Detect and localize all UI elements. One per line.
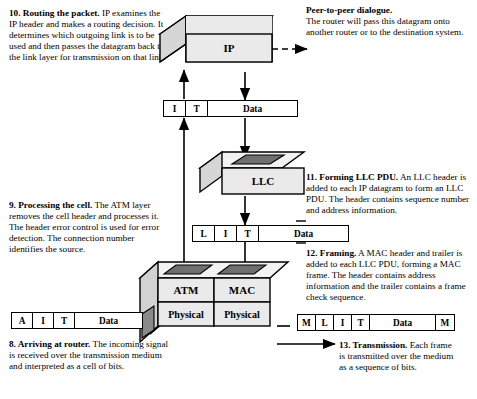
pdu-llc: L I T Data: [192, 225, 349, 242]
pdu-field: Data: [208, 101, 297, 116]
pdu-field: Data: [370, 315, 436, 330]
box-llc: LLC: [200, 152, 310, 204]
pdu-field: M: [298, 315, 316, 330]
pdu-field: T: [352, 315, 370, 330]
box-physical-left-front: [158, 302, 214, 326]
box-stack-top-face: [140, 262, 288, 278]
box-ip: IP: [160, 16, 278, 76]
pdu-field-label: T: [244, 229, 250, 239]
pdu-field: A: [12, 313, 33, 328]
box-llc-side-face: [200, 152, 222, 192]
pdu-field-label: Data: [243, 104, 262, 114]
box-llc-front-panel: [222, 168, 304, 194]
box-ip-side-face: [160, 16, 186, 62]
pdu-field: T: [54, 313, 75, 328]
pdu-field-label: L: [321, 318, 327, 328]
pdu-field: L: [316, 315, 334, 330]
pdu-field-label: A: [19, 316, 26, 326]
pdu-field-label: I: [41, 316, 45, 326]
pdu-mac-frame: M L I T Data M: [297, 314, 455, 331]
pdu-field-label: M: [302, 318, 311, 328]
diagram-canvas: 10. Routing the packet. IP examines the …: [0, 0, 477, 399]
pdu-field-label: I: [173, 104, 177, 114]
pdu-field-label: I: [341, 318, 345, 328]
pdu-field-label: T: [193, 104, 199, 114]
pdu-atm-cell: A I T Data: [11, 312, 143, 329]
box-physical-right-front: [214, 302, 270, 326]
pdu-field-label: M: [441, 318, 450, 328]
pdu-field: I: [164, 101, 186, 116]
box-ip-front-panel: [186, 34, 272, 62]
pdu-field-label: Data: [99, 316, 118, 326]
box-atm-front: [158, 278, 214, 302]
pdu-field: Data: [259, 226, 348, 241]
pdu-field-label: Data: [294, 229, 313, 239]
pdu-field: Data: [75, 313, 142, 328]
box-router-stack: ATM MAC Physical Physical: [140, 262, 288, 350]
pdu-field-label: T: [357, 318, 363, 328]
pdu-field-label: Data: [393, 318, 412, 328]
pdu-field: L: [193, 226, 215, 241]
pdu-field: I: [334, 315, 352, 330]
pdu-field: I: [33, 313, 54, 328]
pdu-field-label: T: [61, 316, 67, 326]
pdu-field-label: L: [200, 229, 206, 239]
pdu-field: M: [436, 315, 454, 330]
pdu-field: T: [237, 226, 259, 241]
pdu-ip-datagram: I T Data: [163, 100, 298, 117]
box-mac-front: [214, 278, 270, 302]
pdu-field: I: [215, 226, 237, 241]
pdu-field-label: I: [224, 229, 228, 239]
pdu-field: T: [186, 101, 208, 116]
